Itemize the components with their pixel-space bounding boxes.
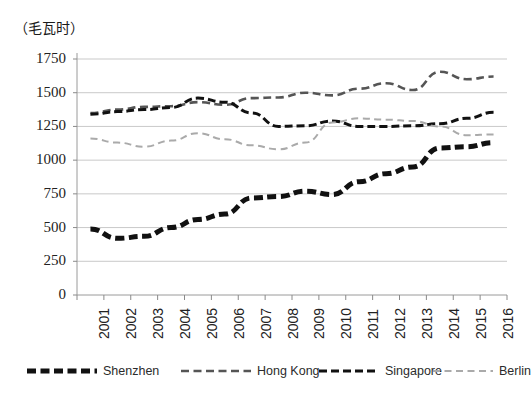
legend-swatch-hong-kong [180,365,252,377]
legend-swatch-berlin [432,365,494,377]
axis-lines [77,53,507,295]
legend-swatch-shenzhen [26,365,98,377]
legend-label: Hong Kong [257,364,320,378]
chart-container: （毛瓦时） 02505007501000125015001750 2001200… [0,0,532,396]
series-line-shenzhen [90,143,493,239]
series-line-singapore [90,98,493,126]
gridlines [77,59,507,261]
legend-item-berlin[interactable]: Berlin [432,360,531,382]
legend-item-hong-kong[interactable]: Hong Kong [180,360,320,382]
plot-area [0,0,532,396]
legend-item-shenzhen[interactable]: Shenzhen [26,360,159,382]
legend-label: Shenzhen [103,364,159,378]
legend-item-singapore[interactable]: Singapore [318,360,442,382]
legend-swatch-singapore [318,365,380,377]
legend-label: Berlin [499,364,531,378]
chart-legend: ShenzhenHong KongSingaporeBerlin [0,360,532,382]
data-series-group [90,72,493,239]
